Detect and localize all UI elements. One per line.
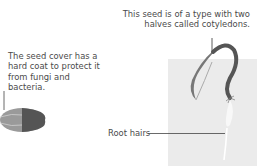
seedling-icon [191, 45, 237, 160]
seed-icon [0, 108, 45, 132]
seed-diagram [0, 0, 257, 166]
